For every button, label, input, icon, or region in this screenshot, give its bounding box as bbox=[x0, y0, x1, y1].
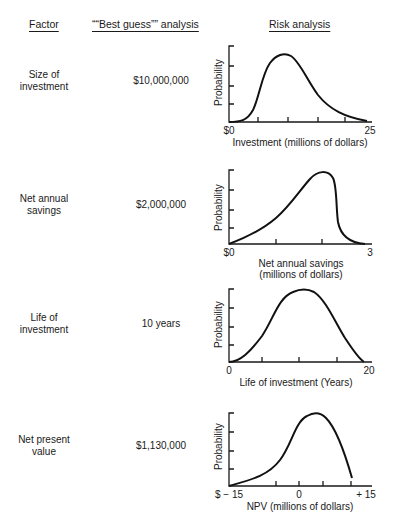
y-ticks bbox=[229, 308, 234, 345]
x-min-label: $0 bbox=[223, 247, 235, 258]
x-min-label: $0 bbox=[223, 125, 235, 136]
probability-curve bbox=[229, 413, 352, 486]
chart-life-of-investment: Probability 0 20 Life of investment (Yea… bbox=[213, 289, 375, 388]
probability-curve bbox=[229, 172, 365, 244]
chart-net-annual-savings: Probability $0 3 Net annual savings (mil… bbox=[213, 170, 373, 280]
chart-axes bbox=[229, 170, 372, 244]
y-ticks bbox=[229, 190, 234, 228]
x-max-label: 25 bbox=[364, 125, 376, 136]
chart-npv: Probability $ − 15 0 + 15 NPV (millions … bbox=[213, 413, 376, 512]
x-min-label: 0 bbox=[226, 365, 232, 376]
x-mid-label: 0 bbox=[296, 489, 302, 500]
y-axis-label: Probability bbox=[213, 423, 224, 470]
y-axis-label: Probability bbox=[213, 59, 224, 106]
y-axis-label: Probability bbox=[213, 184, 224, 231]
x-max-label: 3 bbox=[367, 247, 373, 258]
x-ticks bbox=[276, 481, 351, 486]
x-axis-label: Life of investment (Years) bbox=[239, 377, 352, 388]
chart-axes bbox=[229, 46, 372, 122]
x-max-label: 20 bbox=[363, 365, 375, 376]
x-axis-label-line1: Net annual savings bbox=[258, 258, 343, 269]
x-ticks bbox=[262, 357, 337, 362]
y-axis-label: Probability bbox=[213, 301, 224, 348]
y-ticks bbox=[229, 432, 234, 469]
x-min-label: $ − 15 bbox=[215, 489, 244, 500]
x-ticks bbox=[258, 117, 345, 122]
x-max-label: + 15 bbox=[356, 489, 376, 500]
chart-investment: Probability $0 25 Investment (millions o… bbox=[213, 46, 376, 148]
probability-curve bbox=[229, 290, 364, 362]
x-axis-label: Investment (millions of dollars) bbox=[232, 137, 367, 148]
y-ticks bbox=[229, 66, 234, 104]
x-ticks bbox=[276, 239, 322, 244]
x-axis-label-line2: (millions of dollars) bbox=[259, 269, 342, 280]
risk-analysis-charts: Probability $0 25 Investment (millions o… bbox=[0, 0, 394, 525]
x-axis-label: NPV (millions of dollars) bbox=[247, 501, 354, 512]
probability-curve bbox=[229, 54, 367, 122]
